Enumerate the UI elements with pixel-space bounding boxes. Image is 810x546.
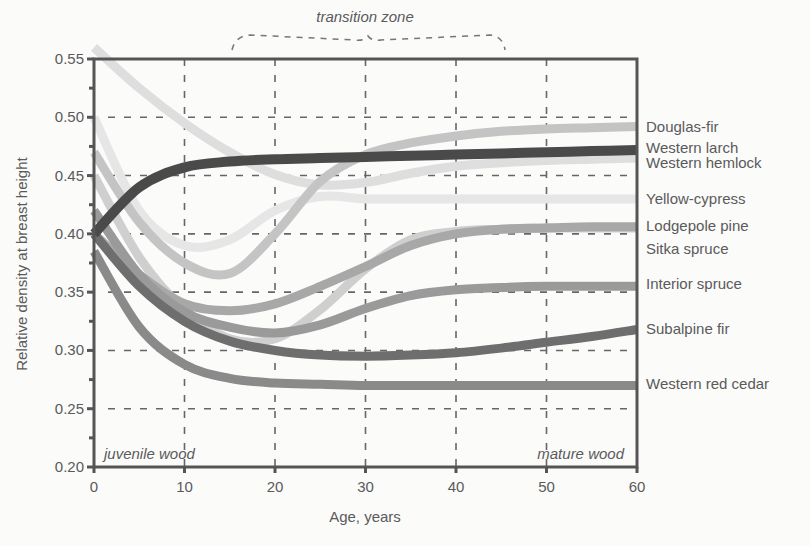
- series-label: Western red cedar: [646, 375, 769, 392]
- y-axis-title: Relative density at breast height: [13, 156, 30, 370]
- transition-zone-brace: [232, 35, 505, 50]
- series-label: Douglas-fir: [646, 118, 719, 135]
- mature-wood-label: mature wood: [537, 445, 624, 462]
- series-labels: Douglas-firWestern larchWestern hemlockY…: [646, 118, 769, 393]
- x-tick-label: 40: [448, 478, 465, 495]
- series-label: Lodgepole pine: [646, 217, 749, 234]
- density-chart: 0.200.250.300.350.400.450.500.5501020304…: [0, 0, 810, 546]
- x-tick-label: 20: [267, 478, 284, 495]
- y-tick-label: 0.30: [55, 341, 84, 358]
- series-line-western-hemlock: [94, 47, 637, 185]
- y-tick-label: 0.35: [55, 283, 84, 300]
- series-label: Sitka spruce: [646, 240, 729, 257]
- series-label: Western hemlock: [646, 154, 762, 171]
- y-tick-label: 0.50: [55, 108, 84, 125]
- series-label: Subalpine fir: [646, 320, 729, 337]
- series-label: Interior spruce: [646, 275, 742, 292]
- y-tick-label: 0.55: [55, 50, 84, 67]
- transition-zone-label: transition zone: [316, 8, 414, 25]
- x-tick-label: 60: [629, 478, 646, 495]
- y-tick-label: 0.25: [55, 400, 84, 417]
- y-tick-label: 0.40: [55, 225, 84, 242]
- juvenile-wood-label: juvenile wood: [102, 445, 196, 462]
- y-tick-label: 0.45: [55, 167, 84, 184]
- x-tick-label: 0: [90, 478, 98, 495]
- series-label: Yellow-cypress: [646, 190, 746, 207]
- y-tick-label: 0.20: [55, 458, 84, 475]
- x-tick-label: 50: [538, 478, 555, 495]
- x-axis-title: Age, years: [329, 508, 401, 525]
- x-tick-label: 30: [357, 478, 374, 495]
- x-tick-label: 10: [176, 478, 193, 495]
